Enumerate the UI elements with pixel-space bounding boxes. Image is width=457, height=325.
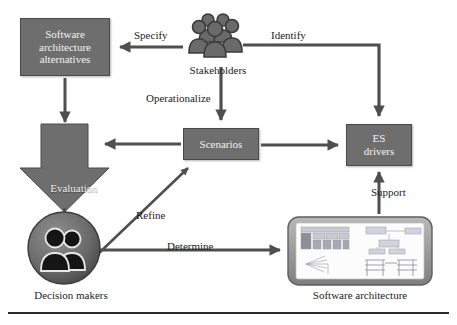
- node-software-architecture-alternatives[interactable]: Software architecture alternatives: [20, 18, 110, 76]
- node-label: ES drivers: [364, 132, 395, 158]
- stakeholders-people-icon: [186, 11, 246, 63]
- decision-makers-caption: Decision makers: [19, 289, 123, 301]
- figure-bottom-rule: [8, 312, 449, 314]
- stakeholders-caption: Stakeholders: [178, 64, 258, 76]
- node-evaluation-shape: [20, 124, 109, 212]
- edge-label-identify: Identify: [271, 29, 306, 41]
- node-label: Software architecture alternatives: [39, 28, 91, 67]
- software-architecture-panel[interactable]: [287, 216, 433, 286]
- node-es-drivers[interactable]: ES drivers: [346, 124, 412, 166]
- edge-label-determine: Determine: [167, 240, 213, 252]
- decision-makers-badge-icon[interactable]: [24, 208, 104, 288]
- edge-label-support: Support: [371, 186, 406, 198]
- diagram-canvas: Software architecture alternatives Scena…: [0, 0, 457, 325]
- edge-label-operationalize: Operationalize: [146, 92, 211, 104]
- node-scenarios[interactable]: Scenarios: [183, 128, 259, 160]
- edge-label-refine: Refine: [136, 209, 165, 221]
- software-architecture-caption: Software architecture: [296, 289, 424, 301]
- node-label: Scenarios: [200, 138, 243, 151]
- edge-identify: [243, 45, 379, 116]
- edge-label-specify: Specify: [134, 29, 168, 41]
